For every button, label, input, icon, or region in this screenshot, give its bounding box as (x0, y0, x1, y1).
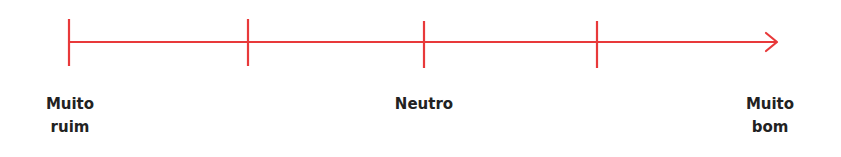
label-line: ruim (30, 116, 110, 139)
label-muito-bom: Muito bom (730, 93, 810, 139)
label-line: Muito (730, 93, 810, 116)
label-line: Muito (30, 93, 110, 116)
label-neutro: Neutro (384, 93, 464, 116)
label-muito-ruim: Muito ruim (30, 93, 110, 139)
label-line: Neutro (384, 93, 464, 116)
rating-scale-axis (0, 0, 841, 157)
label-line: bom (730, 116, 810, 139)
